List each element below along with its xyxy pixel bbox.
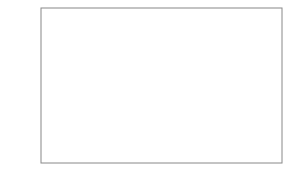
range-bar-chart — [0, 0, 297, 193]
plot-frame — [41, 8, 282, 163]
